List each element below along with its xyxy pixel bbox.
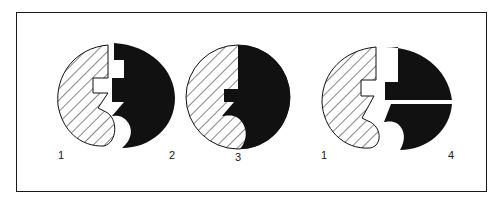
label-fig1-right: 2 (169, 150, 175, 161)
solid-piece (112, 43, 175, 148)
label-fig1-left: 1 (58, 150, 64, 161)
label-fig2-center: 3 (235, 152, 241, 163)
hatched-piece (58, 45, 115, 146)
figure-split (322, 47, 452, 150)
diagram-canvas (0, 0, 504, 204)
label-fig3-right: 4 (448, 150, 454, 161)
solid-piece-lower (384, 104, 452, 150)
solid-piece-upper (385, 47, 452, 100)
figure-joined (186, 45, 290, 149)
hatched-piece (322, 47, 379, 148)
figure-separated (58, 43, 175, 148)
label-fig3-left: 1 (321, 150, 327, 161)
